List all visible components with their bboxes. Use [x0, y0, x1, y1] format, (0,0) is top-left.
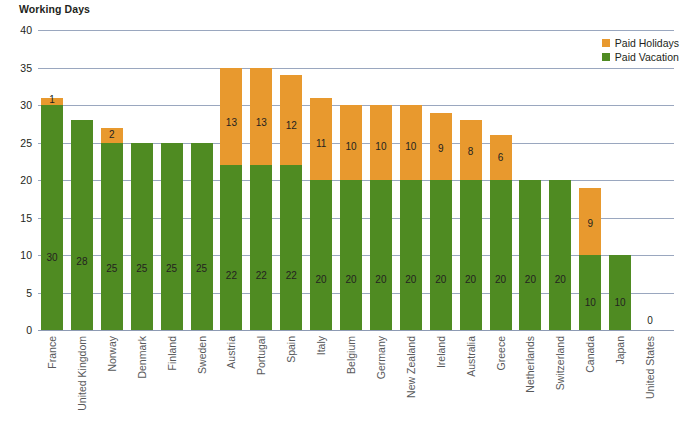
bar-segment-paid-vacation[interactable]: 20	[400, 180, 422, 330]
bar-column[interactable]: 206	[490, 30, 512, 330]
bar-segment-paid-vacation[interactable]: 25	[131, 143, 153, 331]
bar-column[interactable]: 2011	[310, 30, 332, 330]
bar-column[interactable]: 25	[191, 30, 213, 330]
bar-value-label-vacation: 25	[101, 264, 123, 274]
x-axis-tick-label: Greece	[490, 334, 512, 428]
bar-segment-paid-vacation[interactable]: 22	[220, 165, 242, 330]
x-axis-tick-label: Japan	[609, 334, 631, 428]
bar-column[interactable]: 28	[71, 30, 93, 330]
bar-column[interactable]: 20	[549, 30, 571, 330]
bar-segment-paid-holidays[interactable]: 10	[340, 105, 362, 180]
bar-segment-paid-vacation[interactable]: 20	[549, 180, 571, 330]
bar-segment-paid-vacation[interactable]: 20	[460, 180, 482, 330]
bar-group: 3012825225252522132213221220112010201020…	[38, 30, 674, 330]
bar-value-label-zero: 0	[639, 316, 661, 326]
bar-segment-paid-vacation[interactable]: 28	[71, 120, 93, 330]
bar-column[interactable]: 25	[131, 30, 153, 330]
y-axis-tick-label: 0	[26, 324, 32, 336]
bar-segment-paid-holidays[interactable]: 9	[579, 188, 601, 256]
bar-column[interactable]: 301	[41, 30, 63, 330]
bar-column[interactable]: 208	[460, 30, 482, 330]
x-axis-tick-text: Canada	[584, 336, 596, 373]
bar-value-label-holidays: 13	[220, 118, 242, 128]
bar-column[interactable]: 109	[579, 30, 601, 330]
bar-column[interactable]: 25	[161, 30, 183, 330]
plot-area: 0510152025303540 30128252252525221322132…	[38, 30, 674, 330]
bar-column[interactable]: 252	[101, 30, 123, 330]
legend-item-paid-vacation: Paid Vacation	[602, 52, 679, 63]
bar-segment-paid-vacation[interactable]: 20	[519, 180, 541, 330]
y-axis-title: Working Days	[19, 3, 90, 15]
bar-segment-paid-holidays[interactable]: 9	[430, 113, 452, 181]
x-axis-tick-text: United States	[644, 336, 656, 399]
x-axis-tick-label: France	[41, 334, 63, 428]
x-axis-tick-label: Denmark	[131, 334, 153, 428]
bar-segment-paid-vacation[interactable]: 20	[310, 180, 332, 330]
x-axis-tick-label: Switzerland	[549, 334, 571, 428]
bar-column[interactable]: 2010	[400, 30, 422, 330]
bar-column[interactable]: 20	[519, 30, 541, 330]
bar-column[interactable]: 2212	[280, 30, 302, 330]
bar-segment-paid-vacation[interactable]: 25	[101, 143, 123, 331]
bar-segment-paid-vacation[interactable]: 10	[579, 255, 601, 330]
bar-segment-paid-holidays[interactable]: 13	[220, 68, 242, 166]
x-axis-tick-text: Greece	[495, 336, 507, 370]
bar-segment-paid-vacation[interactable]: 30	[41, 105, 63, 330]
bar-value-label-holidays: 10	[400, 142, 422, 152]
bar-segment-paid-holidays[interactable]: 1	[41, 98, 63, 106]
y-axis-tick-label: 15	[20, 212, 32, 224]
bar-segment-paid-vacation[interactable]: 10	[609, 255, 631, 330]
bar-value-label-holidays: 11	[310, 139, 332, 149]
bar-value-label-vacation: 22	[220, 271, 242, 281]
bar-column[interactable]: 209	[430, 30, 452, 330]
bar-value-label-vacation: 25	[191, 264, 213, 274]
bar-value-label-vacation: 28	[71, 257, 93, 267]
x-axis-tick-label: Canada	[579, 334, 601, 428]
x-axis-tick-label: Ireland	[430, 334, 452, 428]
bar-segment-paid-vacation[interactable]: 25	[161, 143, 183, 331]
y-axis-tick-label: 25	[20, 137, 32, 149]
bar-segment-paid-holidays[interactable]: 13	[250, 68, 272, 166]
bar-segment-paid-vacation[interactable]: 20	[490, 180, 512, 330]
y-axis-tick-label: 30	[20, 99, 32, 111]
bar-segment-paid-holidays[interactable]: 6	[490, 135, 512, 180]
bar-column[interactable]: 10	[609, 30, 631, 330]
x-axis-tick-text: Belgium	[345, 336, 357, 374]
chart-container: Working Days 0510152025303540 3012825225…	[0, 0, 691, 428]
x-axis-tick-text: Denmark	[136, 336, 148, 379]
bar-value-label-holidays: 12	[280, 121, 302, 131]
bar-value-label-vacation: 20	[519, 275, 541, 285]
bar-value-label-vacation: 20	[340, 275, 362, 285]
bar-segment-paid-vacation[interactable]: 20	[340, 180, 362, 330]
bar-column[interactable]: 2213	[250, 30, 272, 330]
bar-segment-paid-holidays[interactable]: 2	[101, 128, 123, 143]
bar-column[interactable]: 0	[639, 30, 661, 330]
bar-column[interactable]: 2010	[340, 30, 362, 330]
bar-value-label-holidays: 10	[370, 142, 392, 152]
y-axis-tick-label: 10	[20, 249, 32, 261]
bar-column[interactable]: 2213	[220, 30, 242, 330]
x-axis-tick-text: Japan	[614, 336, 626, 365]
bar-segment-paid-holidays[interactable]: 10	[400, 105, 422, 180]
bar-segment-paid-vacation[interactable]: 20	[370, 180, 392, 330]
bar-segment-paid-holidays[interactable]: 11	[310, 98, 332, 181]
bar-segment-paid-vacation[interactable]: 25	[191, 143, 213, 331]
bar-segment-paid-vacation[interactable]: 22	[250, 165, 272, 330]
bar-value-label-vacation: 20	[310, 275, 332, 285]
bar-segment-paid-holidays[interactable]: 10	[370, 105, 392, 180]
bar-value-label-holidays: 2	[101, 130, 123, 140]
legend-label-paid-holidays: Paid Holidays	[615, 38, 679, 49]
bar-value-label-vacation: 20	[549, 275, 571, 285]
x-axis-tick-text: Australia	[465, 336, 477, 377]
legend-swatch-icon-paid-holidays	[602, 39, 610, 47]
x-axis-tick-label: Belgium	[340, 334, 362, 428]
bar-segment-paid-holidays[interactable]: 12	[280, 75, 302, 165]
bar-value-label-vacation: 25	[131, 264, 153, 274]
x-axis-tick-label: United States	[639, 334, 661, 428]
bar-segment-paid-vacation[interactable]: 22	[280, 165, 302, 330]
bar-segment-paid-vacation[interactable]: 20	[430, 180, 452, 330]
x-axis-tick-label: Netherlands	[519, 334, 541, 428]
bar-segment-paid-holidays[interactable]: 8	[460, 120, 482, 180]
bar-column[interactable]: 2010	[370, 30, 392, 330]
y-axis-tick-label: 20	[20, 174, 32, 186]
